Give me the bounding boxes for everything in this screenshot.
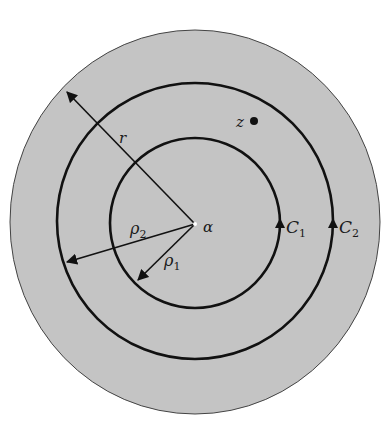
rho1-subscript: 1 [173, 260, 180, 273]
point-z-label: z [235, 113, 244, 131]
c1-subscript: 1 [299, 227, 306, 240]
c2-base: C [339, 217, 352, 237]
c2-subscript: 2 [352, 227, 359, 240]
center-label: α [203, 218, 213, 236]
c1-base: C [286, 217, 299, 237]
center-point [193, 222, 197, 226]
point-z-dot [250, 117, 258, 125]
rho2-subscript: 2 [139, 228, 146, 241]
annulus-diagram: α z r ρ2 ρ1 C1 C2 [0, 0, 392, 430]
rho1-base: ρ [163, 251, 174, 270]
rho2-base: ρ [129, 219, 140, 238]
radius-r-label: r [119, 129, 127, 147]
